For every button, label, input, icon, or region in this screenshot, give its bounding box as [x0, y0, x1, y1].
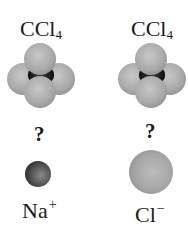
formula-subscript: 4 — [166, 27, 173, 42]
chlorine-atom-front — [24, 76, 56, 108]
cl-ion-label: Cl− — [135, 202, 165, 226]
ion-charge: − — [157, 201, 165, 216]
ccl4-molecule-right — [116, 42, 186, 112]
formula-main: CCl — [20, 16, 55, 41]
ccl4-label-left: CCl4 — [20, 18, 62, 41]
ion-symbol: Na — [22, 198, 48, 223]
formula-main: CCl — [131, 16, 166, 41]
formula-subscript: 4 — [55, 27, 62, 42]
ccl4-molecule-left — [5, 42, 75, 112]
na-ion-sphere — [25, 161, 51, 187]
chlorine-atom-top — [135, 43, 167, 75]
ion-symbol: Cl — [135, 202, 156, 227]
cl-ion-sphere — [129, 150, 173, 194]
ion-charge: + — [49, 197, 57, 212]
question-mark-right: ? — [145, 121, 156, 142]
question-mark-left: ? — [34, 124, 45, 145]
chlorine-atom-top — [24, 43, 56, 75]
ccl4-label-right: CCl4 — [131, 18, 173, 41]
na-ion-label: Na+ — [22, 198, 57, 222]
chlorine-atom-front — [135, 76, 167, 108]
